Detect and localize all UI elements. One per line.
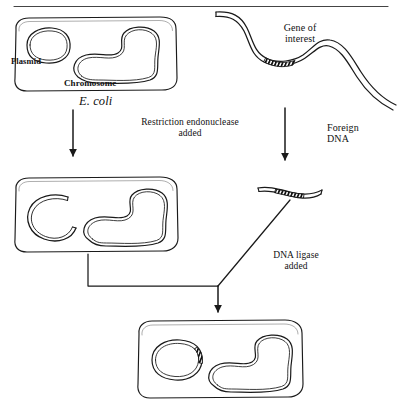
cell-membrane-outer bbox=[138, 320, 303, 398]
recombinant-plasmid-strand-inner bbox=[156, 343, 199, 376]
label-ecoli: E. coli bbox=[79, 94, 112, 108]
label-ligase-step: DNA ligase added bbox=[273, 250, 319, 271]
connector-from-fragment bbox=[218, 200, 290, 286]
diagram-canvas bbox=[0, 0, 402, 415]
connector-from-cell bbox=[88, 254, 218, 286]
gene-of-interest-segment bbox=[264, 58, 295, 67]
label-chromosome: Chromosome bbox=[64, 78, 116, 88]
label-gene-of-interest: Gene of interest bbox=[284, 22, 317, 44]
recombinant-plasmid-strand-outer bbox=[152, 340, 202, 380]
label-restriction-step: Restriction endonuclease added bbox=[141, 117, 239, 138]
label-plasmid: Plasmid bbox=[11, 57, 41, 67]
stage-2-cell bbox=[15, 177, 178, 252]
cell-membrane-inner bbox=[19, 21, 173, 32]
chromosome-strand-outer bbox=[209, 335, 293, 392]
cell-membrane-inner bbox=[142, 324, 298, 335]
chromosome-strand-outer bbox=[84, 189, 168, 246]
recombinant-dna-figure: Plasmid Chromosome E. coli Gene of inter… bbox=[0, 0, 402, 415]
label-foreign-dna: Foreign DNA bbox=[327, 122, 359, 144]
cut-plasmid-strand-outer bbox=[28, 195, 76, 241]
chromosome-strand-outer bbox=[74, 27, 160, 83]
stage-2-fragment bbox=[258, 187, 322, 198]
gene-of-interest-segment bbox=[275, 189, 304, 198]
cut-plasmid-strand-inner bbox=[31, 199, 72, 239]
cut-plasmid-end-cap-top bbox=[68, 197, 69, 201]
stage-3-cell bbox=[138, 320, 303, 398]
cell-membrane-outer bbox=[15, 177, 178, 252]
fragment-end-cap-left bbox=[258, 188, 259, 192]
chromosome-strand-inner bbox=[78, 30, 157, 81]
cut-plasmid-end-cap-bottom bbox=[73, 227, 77, 228]
gene-of-interest-segment bbox=[195, 348, 203, 364]
